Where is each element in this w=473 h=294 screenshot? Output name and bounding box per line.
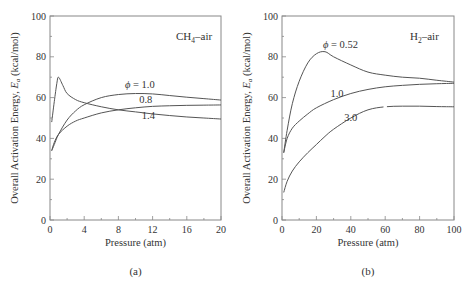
x-tick-label: 16 xyxy=(182,224,192,235)
x-tick-label: 12 xyxy=(148,224,158,235)
x-tick-label: 20 xyxy=(216,224,226,235)
series-label: 1.0 xyxy=(330,88,343,99)
x-tick-label: 8 xyxy=(116,224,121,235)
y-tick-label: 60 xyxy=(268,92,278,103)
x-axis-label: Pressure (atm) xyxy=(338,237,399,249)
panel-a-ch4-air: 048121620020406080100Pressure (atm)(a)Ov… xyxy=(9,11,226,279)
x-tick-label: 0 xyxy=(48,224,53,235)
x-tick-label: 40 xyxy=(346,224,356,235)
x-tick-label: 0 xyxy=(280,224,285,235)
x-axis-label: Pressure (atm) xyxy=(105,237,166,249)
y-axis-label: Overall Activation Energy, Ea (kcal/mol) xyxy=(9,32,22,204)
series-label: ϕ = 1.0 xyxy=(125,79,155,90)
panel-b-h2-air: 020406080100020406080100Pressure (atm)(b… xyxy=(241,11,462,279)
y-tick-label: 40 xyxy=(36,133,46,144)
x-tick-label: 80 xyxy=(415,224,425,235)
series-label: 1.4 xyxy=(142,110,156,121)
x-tick-label: 4 xyxy=(82,224,87,235)
y-tick-label: 100 xyxy=(31,11,46,22)
activation-energy-figure: 048121620020406080100Pressure (atm)(a)Ov… xyxy=(0,0,473,294)
y-tick-label: 80 xyxy=(268,51,278,62)
y-axis-label: Overall Activation Energy, Ea (kcal/mol) xyxy=(241,32,254,204)
x-tick-label: 20 xyxy=(311,224,321,235)
plot-frame xyxy=(282,16,454,220)
x-tick-label: 60 xyxy=(380,224,390,235)
series-label: 0.8 xyxy=(139,94,152,105)
y-tick-label: 20 xyxy=(268,174,278,185)
x-tick-label: 100 xyxy=(447,224,462,235)
series-curve xyxy=(284,106,454,192)
series-curve xyxy=(52,93,221,150)
y-tick-label: 80 xyxy=(36,51,46,62)
panel-title: CH4–air xyxy=(176,30,212,45)
y-tick-label: 0 xyxy=(273,215,278,226)
y-tick-label: 0 xyxy=(41,215,46,226)
y-tick-label: 40 xyxy=(268,133,278,144)
panel-title: H2–air xyxy=(410,30,439,45)
series-curve xyxy=(284,83,454,152)
series-curve xyxy=(284,52,454,153)
y-tick-label: 100 xyxy=(263,11,278,22)
y-tick-label: 60 xyxy=(36,92,46,103)
series-label: 3.0 xyxy=(344,112,357,123)
panel-label: (b) xyxy=(362,265,375,278)
y-tick-label: 20 xyxy=(36,174,46,185)
series-label: ϕ = 0.52 xyxy=(323,39,358,50)
panel-label: (a) xyxy=(129,265,142,278)
